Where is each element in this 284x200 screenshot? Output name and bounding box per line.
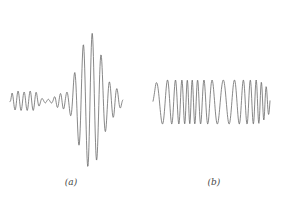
panel-label-b: (b) <box>208 176 221 188</box>
waveform-b <box>153 80 270 124</box>
waveforms-svg <box>0 0 284 200</box>
panel-label-a: (a) <box>65 176 77 188</box>
waveform-a <box>10 33 123 166</box>
figure-canvas: (a) (b) <box>0 0 284 200</box>
